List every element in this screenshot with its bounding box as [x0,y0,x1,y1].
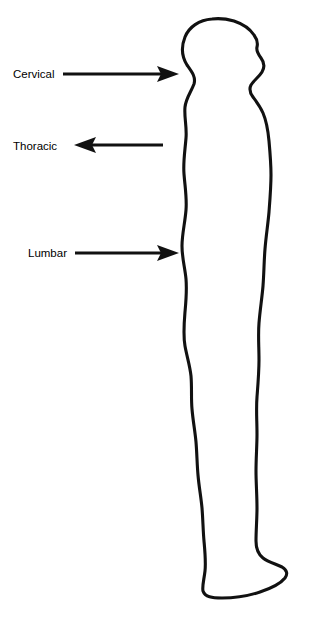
anatomy-diagram-canvas: Cervical Thoracic Lumbar [0,0,312,618]
annotation-thoracic: Thoracic [13,137,163,153]
annotation-lumbar: Lumbar [28,245,179,261]
anatomy-figure: Cervical Thoracic Lumbar [0,0,312,618]
thoracic-label: Thoracic [13,140,57,152]
body-outline-path [182,19,287,598]
annotation-cervical: Cervical [13,66,179,82]
lumbar-label: Lumbar [28,247,67,259]
cervical-label: Cervical [13,68,55,80]
